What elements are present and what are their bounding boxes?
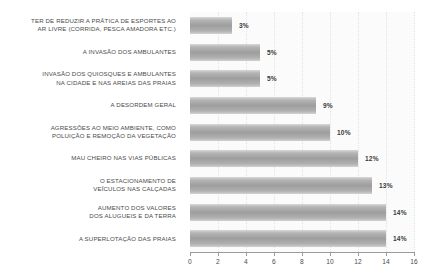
x-tick-mark (190, 252, 191, 256)
bar (190, 70, 260, 87)
bar-chart: TER DE REDUZIR A PRÁTICA DE ESPORTES AO … (0, 0, 427, 279)
category-label: AGRESSÕES AO MEIO AMBIENTE, COMO POLUIÇÃ… (0, 119, 182, 146)
x-tick-mark (274, 252, 275, 256)
x-tick-mark (386, 252, 387, 256)
bar-value-label: 12% (365, 155, 379, 162)
bar (190, 97, 316, 114)
bar-row: 5% (190, 65, 414, 92)
bar (190, 230, 386, 247)
bar-value-label: 10% (337, 129, 351, 136)
bar-row: 3% (190, 12, 414, 39)
x-tick-label: 6 (272, 258, 276, 265)
category-label: TER DE REDUZIR A PRÁTICA DE ESPORTES AO … (0, 12, 182, 39)
bar (190, 150, 358, 167)
x-tick-mark (218, 252, 219, 256)
bar (190, 177, 372, 194)
bar-row: 10% (190, 119, 414, 146)
bar-value-label: 3% (239, 22, 249, 29)
x-tick-label: 2 (216, 258, 220, 265)
bar-row: 9% (190, 92, 414, 119)
x-tick-mark (246, 252, 247, 256)
x-tick-mark (358, 252, 359, 256)
x-tick-label: 10 (326, 258, 334, 265)
category-label: A INVASÃO DOS AMBULANTES (0, 39, 182, 66)
category-label: INVASÃO DOS QUIOSQUES E AMBULANTES NA CI… (0, 65, 182, 92)
bar-row: 14% (190, 225, 414, 252)
x-tick-label: 12 (354, 258, 362, 265)
bar-value-label: 14% (393, 235, 407, 242)
bar-row: 14% (190, 199, 414, 226)
bar (190, 124, 330, 141)
bar (190, 17, 232, 34)
x-tick-mark (302, 252, 303, 256)
bar (190, 204, 386, 221)
category-label: AUMENTO DOS VALORES DOS ALUGUEIS E DA TE… (0, 199, 182, 226)
x-tick-label: 4 (244, 258, 248, 265)
bar (190, 44, 260, 61)
x-tick-mark (414, 252, 415, 256)
bar-value-label: 9% (323, 102, 333, 109)
x-tick-label: 0 (188, 258, 192, 265)
x-tick-mark (330, 252, 331, 256)
gridline (414, 12, 415, 252)
bar-series: 3% 5% 5% 9% 10% 12% (190, 12, 414, 252)
x-axis: 0246810121416 (190, 252, 414, 274)
x-tick-label: 14 (382, 258, 390, 265)
bar-value-label: 13% (379, 182, 393, 189)
bar-row: 5% (190, 39, 414, 66)
plot-area: 3% 5% 5% 9% 10% 12% (190, 12, 414, 252)
category-axis: TER DE REDUZIR A PRÁTICA DE ESPORTES AO … (0, 12, 182, 252)
x-tick-label: 8 (300, 258, 304, 265)
bar-value-label: 5% (267, 75, 277, 82)
bar-value-label: 14% (393, 209, 407, 216)
bar-row: 12% (190, 145, 414, 172)
x-tick-label: 16 (410, 258, 418, 265)
category-label: MAU CHEIRO NAS VIAS PÚBLICAS (0, 145, 182, 172)
category-label: A SUPERLOTAÇÃO DAS PRAIAS (0, 225, 182, 252)
bar-value-label: 5% (267, 49, 277, 56)
category-label: A DESORDEM GERAL (0, 92, 182, 119)
bar-row: 13% (190, 172, 414, 199)
category-label: O ESTACIONAMENTO DE VEÍCULOS NAS CALÇADA… (0, 172, 182, 199)
